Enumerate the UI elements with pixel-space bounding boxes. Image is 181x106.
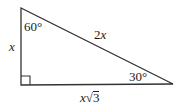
radicand: 3 — [93, 91, 100, 104]
side-left-variable: x — [9, 39, 15, 54]
side-label-2x: 2x — [94, 28, 106, 41]
square-root: √3 — [86, 91, 100, 104]
right-angle-marker — [21, 76, 30, 85]
hyp-variable: x — [101, 27, 107, 42]
angle-label-60: 60° — [24, 20, 42, 33]
radical-icon: √ — [86, 90, 93, 105]
side-label-x-root-3: x√3 — [80, 91, 99, 104]
angle-label-30: 30° — [129, 70, 147, 83]
triangle-shape — [21, 8, 173, 85]
side-label-x: x — [9, 40, 15, 53]
angle-top-value: 60° — [24, 19, 42, 34]
angle-right-value: 30° — [129, 69, 147, 84]
triangle-diagram: 60° x 2x 30° x√3 — [0, 0, 181, 106]
